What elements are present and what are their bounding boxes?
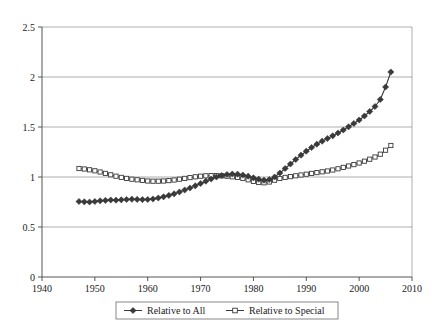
- marker-filled-diamond: [113, 197, 119, 203]
- series-relative-to-special: [77, 143, 393, 185]
- marker-open-square: [172, 178, 176, 182]
- marker-filled-diamond: [319, 138, 325, 144]
- marker-open-square: [278, 176, 282, 180]
- marker-filled-diamond: [86, 199, 92, 205]
- marker-open-square: [299, 173, 303, 177]
- marker-open-square: [389, 143, 393, 147]
- marker-open-square: [77, 166, 81, 170]
- marker-open-square: [378, 152, 382, 156]
- x-tick-labels: 19401950196019701980199020002010: [32, 283, 422, 294]
- grid-lines: [42, 27, 412, 227]
- marker-open-square: [87, 168, 91, 172]
- marker-filled-diamond: [335, 130, 341, 136]
- marker-open-square: [156, 179, 160, 183]
- marker-filled-diamond: [160, 194, 166, 200]
- chart-legend: Relative to AllRelative to Special: [116, 302, 338, 319]
- y-tick-label-1: 1: [30, 172, 35, 183]
- marker-filled-diamond: [324, 135, 330, 141]
- marker-open-square: [315, 171, 319, 175]
- marker-open-square: [362, 159, 366, 163]
- x-tick-label-1960: 1960: [138, 283, 158, 294]
- marker-open-square: [309, 171, 313, 175]
- marker-filled-diamond: [97, 198, 103, 204]
- marker-open-square: [177, 177, 181, 181]
- marker-open-square: [346, 164, 350, 168]
- legend-label-0: Relative to All: [147, 305, 206, 316]
- marker-filled-diamond: [92, 198, 98, 204]
- marker-open-square: [373, 155, 377, 159]
- marker-filled-diamond: [102, 197, 108, 203]
- marker-open-square: [198, 174, 202, 178]
- x-tick-label-1940: 1940: [32, 283, 52, 294]
- marker-open-square: [151, 179, 155, 183]
- marker-filled-diamond: [155, 195, 161, 201]
- marker-open-square: [204, 174, 208, 178]
- marker-open-square: [161, 179, 165, 183]
- marker-open-square: [352, 163, 356, 167]
- marker-open-square: [304, 172, 308, 176]
- y-tick-label-2: 2: [30, 72, 35, 83]
- marker-open-square: [98, 170, 102, 174]
- y-tick-label-2.5: 2.5: [23, 22, 36, 33]
- marker-filled-diamond: [330, 133, 336, 139]
- marker-filled-diamond: [345, 124, 351, 130]
- relative-index-line-chart: 00.511.522.5 194019501960197019801990200…: [0, 0, 432, 330]
- marker-open-square: [93, 169, 97, 173]
- marker-filled-diamond: [340, 127, 346, 133]
- marker-filled-diamond: [150, 196, 156, 202]
- marker-open-square: [368, 157, 372, 161]
- marker-open-square: [140, 178, 144, 182]
- marker-open-square: [294, 174, 298, 178]
- marker-open-square: [183, 176, 187, 180]
- y-tick-label-0: 0: [30, 272, 35, 283]
- marker-open-square: [331, 168, 335, 172]
- marker-open-square: [383, 148, 387, 152]
- marker-filled-diamond: [171, 191, 177, 197]
- marker-open-square: [357, 161, 361, 165]
- marker-open-square: [193, 175, 197, 179]
- marker-open-square: [167, 179, 171, 183]
- marker-filled-diamond: [388, 69, 394, 75]
- y-tick-label-1.5: 1.5: [23, 122, 36, 133]
- series-path-relative-to-all: [79, 72, 391, 202]
- marker-open-square: [135, 178, 139, 182]
- marker-open-square: [109, 173, 113, 177]
- marker-open-square: [336, 167, 340, 171]
- marker-open-square: [103, 171, 107, 175]
- x-tick-label-1950: 1950: [85, 283, 105, 294]
- marker-open-square: [114, 174, 118, 178]
- x-tick-label-1980: 1980: [243, 283, 263, 294]
- marker-filled-diamond: [166, 192, 172, 198]
- marker-open-square: [233, 308, 238, 313]
- series-relative-to-all: [76, 69, 394, 205]
- marker-open-square: [341, 165, 345, 169]
- marker-open-square: [82, 167, 86, 171]
- y-tick-label-0.5: 0.5: [23, 222, 36, 233]
- chart-container: 00.511.522.5 194019501960197019801990200…: [0, 0, 432, 330]
- y-axis: [38, 27, 42, 277]
- marker-filled-diamond: [145, 196, 151, 202]
- y-tick-labels: 00.511.522.5: [23, 22, 36, 283]
- x-tick-label-2000: 2000: [349, 283, 369, 294]
- marker-filled-diamond: [382, 84, 388, 90]
- marker-open-square: [283, 175, 287, 179]
- marker-open-square: [188, 176, 192, 180]
- marker-open-square: [130, 177, 134, 181]
- marker-open-square: [320, 170, 324, 174]
- marker-open-square: [119, 175, 123, 179]
- x-tick-label-1990: 1990: [296, 283, 316, 294]
- marker-open-square: [146, 179, 150, 183]
- marker-open-square: [325, 169, 329, 173]
- x-axis: [42, 277, 412, 281]
- x-tick-label-2010: 2010: [402, 283, 422, 294]
- legend-label-1: Relative to Special: [249, 305, 325, 316]
- x-tick-label-1970: 1970: [191, 283, 211, 294]
- marker-open-square: [288, 175, 292, 179]
- marker-filled-diamond: [314, 141, 320, 147]
- marker-open-square: [124, 176, 128, 180]
- marker-filled-diamond: [351, 120, 357, 126]
